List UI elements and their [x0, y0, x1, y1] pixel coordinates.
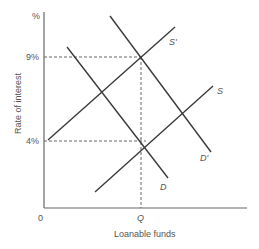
tick-4-percent: 4%: [26, 136, 39, 146]
curve-d-prime: [110, 16, 211, 152]
loanable-funds-diagram: % 9% 4% 0 Q Loanable funds Rate of inter…: [0, 0, 259, 249]
origin-label: 0: [38, 213, 43, 223]
y-unit-label: %: [32, 11, 40, 21]
curve-s: [95, 86, 213, 192]
label-d-prime: D': [200, 153, 208, 163]
label-s: S: [217, 86, 223, 96]
y-axis-label: Rate of interest: [13, 72, 23, 134]
tick-q: Q: [137, 213, 144, 223]
x-axis-label: Loanable funds: [114, 229, 176, 239]
tick-9-percent: 9%: [26, 52, 39, 62]
label-s-prime: S': [169, 37, 177, 47]
curve-d: [67, 47, 168, 178]
label-d: D: [160, 182, 167, 192]
curve-s-prime: [48, 27, 175, 140]
